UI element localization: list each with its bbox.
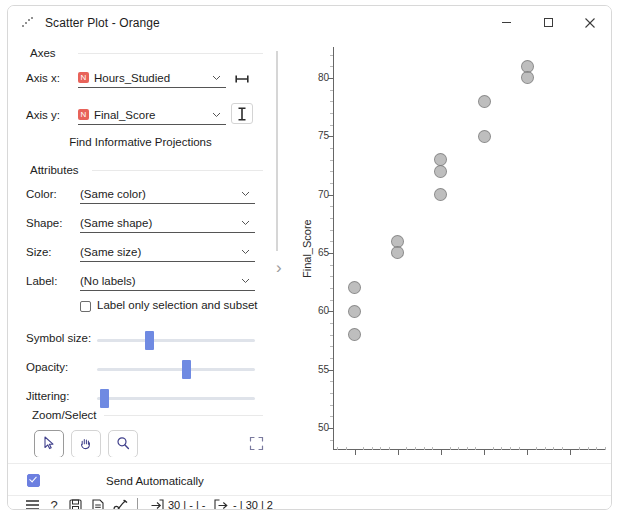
find-informative-projections-button[interactable]: Find Informative Projections [8,136,273,148]
x-axis-tick [441,450,442,455]
y-axis-minor-tick [330,381,333,382]
opacity-slider-track[interactable] [97,368,255,371]
scatter-point[interactable] [348,328,361,341]
axis-y-combobox[interactable]: N Final_Score [78,105,226,125]
arrow-select-tool-button[interactable] [34,430,64,458]
x-axis-minor-tick [475,447,476,450]
y-axis-minor-tick [330,160,333,161]
panel-splitter[interactable] [276,51,278,251]
y-axis-minor-tick [330,206,333,207]
axes-section-title: Axes [30,47,56,59]
axis-y-ibeam-button[interactable] [231,103,253,124]
magnifier-zoom-icon [116,436,130,452]
close-button[interactable] [569,6,611,39]
label-only-selection-checkbox[interactable] [80,301,91,312]
label-combobox[interactable]: (No labels) [80,271,255,291]
y-axis-tick-label: 50 [307,422,329,433]
x-axis-tick [398,450,399,455]
axes-section-rule [78,53,263,54]
scatter-point[interactable] [521,71,534,84]
brush-icon[interactable] [112,498,128,510]
axis-x-value: Hours_Studied [94,72,211,84]
hand-pan-tool-button[interactable] [71,430,101,458]
jittering-slider-handle[interactable] [100,389,109,408]
minimize-button[interactable] [485,6,527,39]
controls-panel: Axes Axis x: N Hours_Studied Axis y: N F… [8,39,273,457]
y-axis-minor-tick [330,288,333,289]
scatter-point[interactable] [478,95,491,108]
x-axis-minor-tick [493,447,494,450]
scatter-point[interactable] [348,281,361,294]
y-axis-minor-tick [330,66,333,67]
numeric-variable-icon: N [78,72,89,83]
reset-zoom-icon [249,436,264,453]
jittering-slider-track[interactable] [97,397,255,400]
chevron-down-icon [240,246,252,258]
y-axis-tick-label: 80 [307,72,329,83]
y-axis-minor-tick [330,335,333,336]
help-question-icon[interactable]: ? [48,497,60,510]
y-axis-minor-tick [330,90,333,91]
y-axis-minor-tick [330,148,333,149]
chevron-down-icon [240,275,252,287]
y-axis-minor-tick [330,125,333,126]
maximize-button[interactable] [527,6,569,39]
y-axis-tick-label: 55 [307,364,329,375]
input-summary-text: 30 | - | - [168,499,206,510]
symbol-size-slider-track[interactable] [97,339,255,342]
y-axis-tick-label: 60 [307,305,329,316]
status-top-rule [8,463,611,464]
axis-y-label: Axis y: [26,109,60,121]
axis-x-ibeam-button[interactable] [231,68,253,89]
axis-y-value: Final_Score [94,109,211,121]
label-only-selection-label: Label only selection and subset [97,299,257,311]
x-axis-tick [570,450,571,455]
scatter-plot-canvas[interactable]: Final_Score Hours_Studied 50556065707580… [291,39,611,457]
x-axis-minor-tick [588,447,589,450]
zoom-select-section-rule [104,415,263,416]
size-combobox[interactable]: (Same size) [80,242,255,262]
magnifier-zoom-tool-button[interactable] [108,430,138,458]
size-label: Size: [26,246,52,258]
y-axis-minor-tick [330,101,333,102]
shape-combobox[interactable]: (Same shape) [80,213,255,233]
save-floppy-icon[interactable] [68,498,83,510]
numeric-variable-icon: N [78,109,89,120]
scatter-point[interactable] [434,188,447,201]
color-combobox[interactable]: (Same color) [80,184,255,204]
y-axis-minor-tick [330,440,333,441]
x-axis-minor-tick [415,447,416,450]
report-document-icon[interactable] [90,498,105,510]
jittering-label: Jittering: [26,390,69,402]
x-axis-minor-tick [346,447,347,450]
hand-pan-icon [79,436,93,452]
status-separator-1 [137,498,138,510]
attributes-section-rule [92,170,263,171]
x-axis-minor-tick [467,447,468,450]
reset-zoom-button[interactable] [241,430,271,458]
symbol-size-slider-handle[interactable] [145,331,154,350]
send-automatically-checkbox[interactable] [27,474,40,487]
y-axis-minor-tick [330,300,333,301]
opacity-slider-handle[interactable] [182,360,191,379]
scatter-point[interactable] [348,305,361,318]
opacity-label: Opacity: [26,361,68,373]
hamburger-menu-icon[interactable] [24,498,40,510]
x-axis-line [333,449,605,450]
scatter-point[interactable] [391,246,404,259]
y-axis-minor-tick [330,218,333,219]
scatter-plot-window: Scatter Plot - Orange Axes Axis x: N Hou… [7,5,612,510]
axis-x-combobox[interactable]: N Hours_Studied [78,68,226,88]
y-axis-minor-tick [330,416,333,417]
axis-x-label: Axis x: [26,72,60,84]
scatter-point[interactable] [478,130,491,143]
x-axis-tick [484,450,485,455]
scatter-point[interactable] [434,165,447,178]
x-axis-minor-tick [519,447,520,450]
x-axis-minor-tick [424,447,425,450]
panel-collapse-arrow-icon[interactable]: › [276,259,282,276]
y-axis-minor-tick [330,393,333,394]
y-axis-minor-tick [330,276,333,277]
x-axis-minor-tick [372,447,373,450]
output-summary-text: - | 30 | 2 [233,499,273,510]
